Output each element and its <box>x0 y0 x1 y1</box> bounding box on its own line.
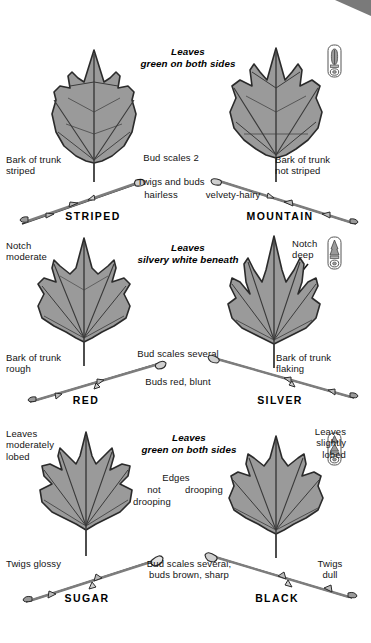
page-corner-triangle-icon <box>335 0 371 16</box>
silver-maple-leaf-icon <box>222 234 326 368</box>
group-sugar-black: Leaves green on both sides Leaves modera… <box>0 410 371 625</box>
species-name-striped: STRIPED <box>38 210 148 222</box>
species-name-silver: SILVER <box>226 394 334 406</box>
twig-texture-note-striped: hairless <box>128 189 194 200</box>
species-name-sugar: SUGAR <box>32 592 142 604</box>
red-maple-leaf-icon <box>34 234 134 366</box>
twig-texture-note-mountain: velvety-hairy <box>190 189 276 200</box>
edges-note-2: not <box>135 484 173 495</box>
maple-identification-chart: Leaves green on both sides <box>0 0 371 643</box>
group-red-silver: Leaves silvery white beneath Notch moder… <box>0 224 371 410</box>
sugar-maple-leaf-icon <box>34 430 138 556</box>
bud-detail-badge-icon <box>327 44 342 78</box>
edges-note-4: drooping <box>133 496 199 507</box>
group-striped-mountain: Leaves green on both sides <box>0 16 371 224</box>
bud-scales-note-1: Bud scales 2 <box>126 152 216 163</box>
edges-note-1: Edges <box>148 472 204 483</box>
species-name-black: BLACK <box>222 592 332 604</box>
black-maple-leaf-icon <box>224 434 328 558</box>
twigs-and-buds-note: Twigs and buds <box>121 176 221 187</box>
species-name-mountain: MOUNTAIN <box>222 210 338 222</box>
bark-note-striped: Bark of trunk striped <box>6 154 84 177</box>
species-name-red: RED <box>36 394 136 406</box>
